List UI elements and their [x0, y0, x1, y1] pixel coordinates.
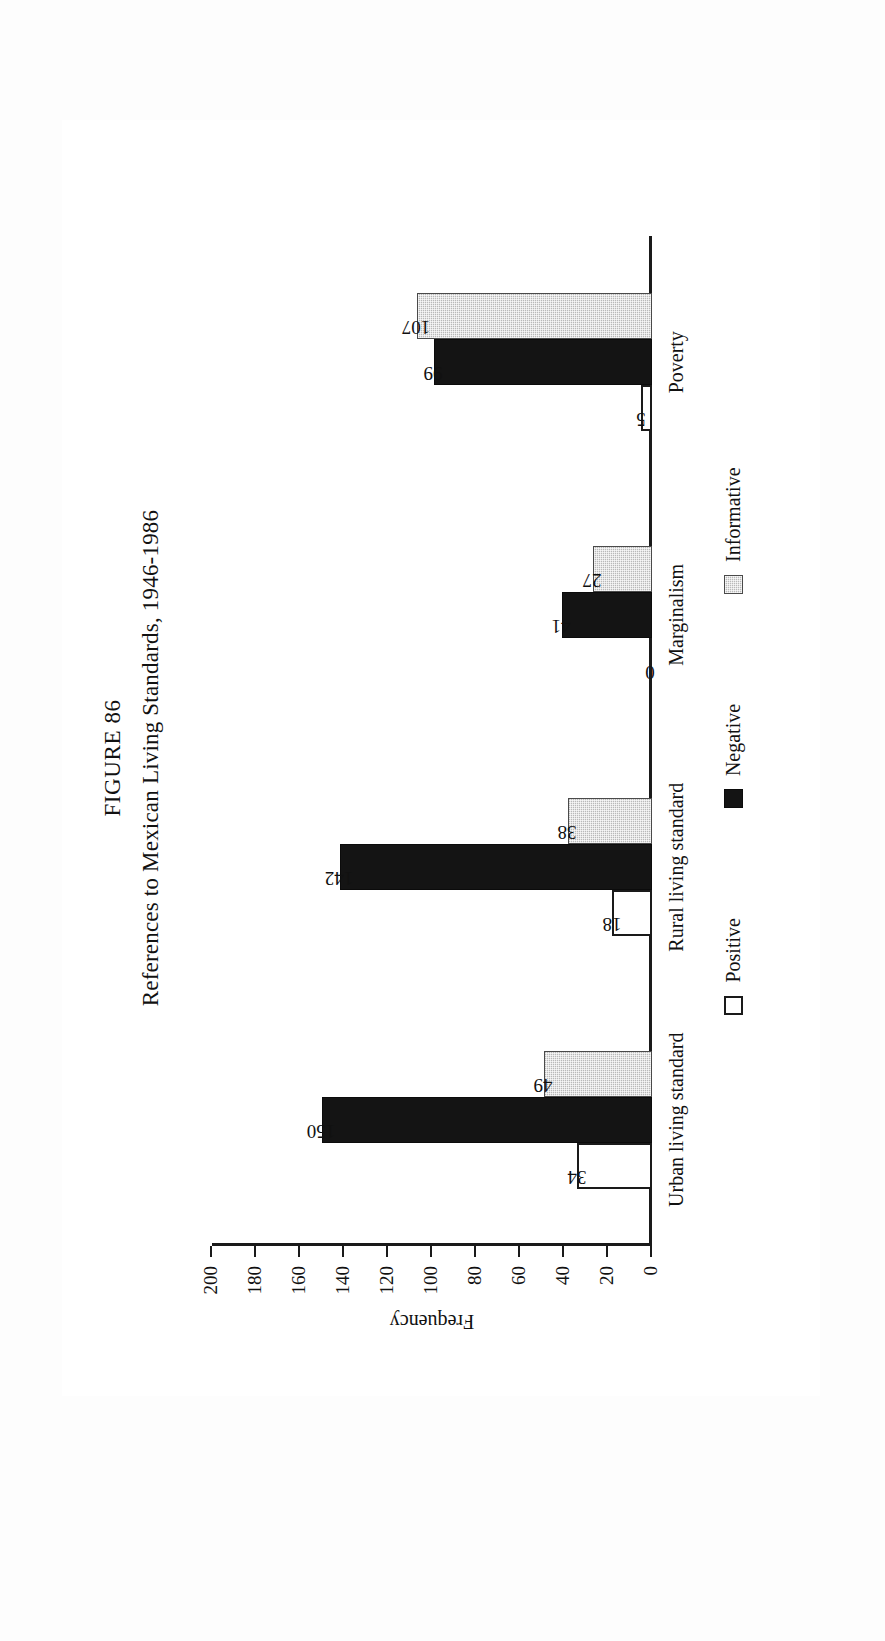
bar-value-label: 142	[324, 867, 353, 889]
bar-groups: 3415049Urban living standard1814238Rural…	[212, 236, 652, 1246]
bar-negative[interactable]: 150	[322, 1097, 652, 1143]
bar-value-label: 41	[551, 615, 570, 637]
category-label: Urban living standard	[665, 1033, 688, 1207]
bar-value-label: 34	[568, 1166, 587, 1188]
y-axis-tick-label: 0	[640, 1266, 662, 1276]
y-axis-tick: 140	[342, 1246, 344, 1257]
bar-group: 599107Poverty	[212, 236, 652, 489]
y-axis-tick-label: 120	[376, 1266, 398, 1295]
y-axis-tick-label: 80	[464, 1266, 486, 1285]
legend-item-negative[interactable]: Negative	[722, 704, 745, 808]
y-axis-tick-label: 40	[552, 1266, 574, 1285]
y-axis-tick: 60	[518, 1246, 520, 1257]
category-label: Marginalism	[665, 564, 688, 666]
y-axis-tick: 160	[298, 1246, 300, 1257]
bar-value-label: 99	[424, 362, 443, 384]
bar-negative[interactable]: 99	[434, 339, 652, 385]
bar-value-label: 0	[645, 661, 655, 683]
y-axis-tick: 180	[254, 1246, 256, 1257]
y-axis-tick-label: 60	[508, 1266, 530, 1285]
bar-group: 3415049Urban living standard	[212, 994, 652, 1247]
bar-informative[interactable]: 38	[568, 798, 652, 844]
bar-value-label: 27	[582, 569, 601, 591]
bar-informative[interactable]: 49	[544, 1051, 652, 1097]
legend-label: Positive	[722, 918, 745, 982]
legend-swatch-negative-icon	[724, 789, 743, 808]
bar-value-label: 38	[558, 821, 577, 843]
y-axis-tick: 100	[430, 1246, 432, 1257]
legend-swatch-positive-icon	[724, 996, 743, 1015]
y-axis-tick-label: 100	[420, 1266, 442, 1295]
y-axis-tick: 20	[606, 1246, 608, 1257]
legend-swatch-informative-icon	[724, 575, 743, 594]
bar-positive[interactable]: 34	[577, 1143, 652, 1189]
y-axis-tick-label: 180	[244, 1266, 266, 1295]
bar-positive[interactable]: 18	[612, 890, 652, 936]
category-label: Poverty	[665, 331, 688, 393]
y-axis-tick: 120	[386, 1246, 388, 1257]
category-label: Rural living standard	[665, 783, 688, 952]
bar-informative[interactable]: 27	[593, 546, 652, 592]
y-axis-tick-label: 200	[200, 1266, 222, 1295]
y-axis-tick-label: 160	[288, 1266, 310, 1295]
figure-caption: References to Mexican Living Standards, …	[138, 120, 164, 1396]
chart-legend: PositiveNegativeInformative	[722, 236, 745, 1246]
rotated-figure-stage: FIGURE 86 References to Mexican Living S…	[62, 120, 820, 1396]
y-axis-tick: 80	[474, 1246, 476, 1257]
bar-group: 04127Marginalism	[212, 489, 652, 742]
bar-informative[interactable]: 107	[417, 293, 652, 339]
legend-label: Informative	[722, 467, 745, 561]
y-axis-tick-label: 140	[332, 1266, 354, 1295]
bar-negative[interactable]: 41	[562, 592, 652, 638]
bar-negative[interactable]: 142	[340, 844, 652, 890]
figure-canvas: FIGURE 86 References to Mexican Living S…	[62, 120, 820, 1396]
bar-value-label: 49	[534, 1074, 553, 1096]
legend-item-informative[interactable]: Informative	[722, 467, 745, 593]
y-axis-tick-label: 20	[596, 1266, 618, 1285]
plot-area: 020406080100120140160180200 Frequency 34…	[212, 236, 652, 1246]
bar-value-label: 150	[307, 1120, 336, 1142]
y-axis-tick: 40	[562, 1246, 564, 1257]
bar-positive[interactable]: 5	[641, 385, 652, 431]
y-axis-tick: 200	[210, 1246, 212, 1257]
y-axis-title: Frequency	[390, 1310, 474, 1333]
legend-item-positive[interactable]: Positive	[722, 918, 745, 1014]
bar-value-label: 107	[401, 316, 430, 338]
figure-number-label: FIGURE 86	[100, 120, 126, 1396]
bar-group: 1814238Rural living standard	[212, 741, 652, 994]
legend-label: Negative	[722, 704, 745, 776]
bar-value-label: 5	[636, 408, 646, 430]
bar-value-label: 18	[603, 913, 622, 935]
y-axis-tick: 0	[650, 1246, 652, 1257]
